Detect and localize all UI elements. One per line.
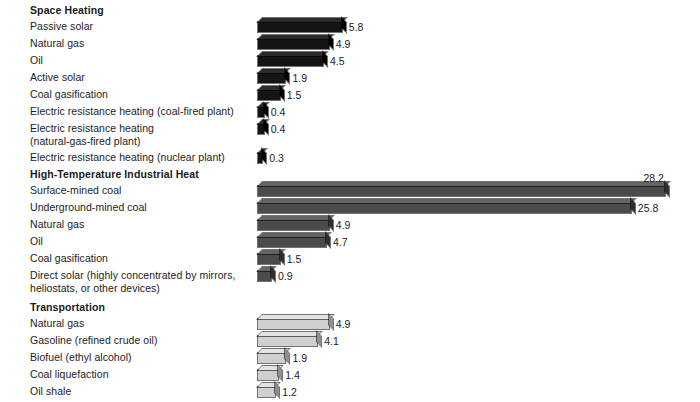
bar-front-face xyxy=(258,387,275,397)
bar-value-label: 1.9 xyxy=(292,72,307,84)
bar-front-face xyxy=(258,107,264,117)
bar-front-face xyxy=(258,370,278,380)
category-label: Natural gas xyxy=(30,218,84,231)
category-label: Surface-mined coal xyxy=(30,184,121,197)
bar-side-face xyxy=(275,383,279,397)
chart-row: Natural gas4.9 xyxy=(0,218,700,235)
chart-row: Natural gas4.9 xyxy=(0,317,700,334)
bar-value-label: 0.4 xyxy=(271,123,286,135)
bar xyxy=(258,203,631,217)
bar-front-face xyxy=(258,353,285,363)
chart-row: Coal liquefaction1.4 xyxy=(0,368,700,385)
bar xyxy=(258,271,271,285)
category-label: Electric resistance heating (nuclear pla… xyxy=(30,151,225,164)
bar xyxy=(258,124,264,138)
bar-front-face xyxy=(258,56,323,66)
bar-top-face xyxy=(258,199,635,203)
bar-top-face xyxy=(258,35,333,39)
bar xyxy=(258,237,326,251)
category-label: Coal gasification xyxy=(30,252,108,265)
bar-value-label: 1.9 xyxy=(292,352,307,364)
chart-row: Electric resistance heating (natural-gas… xyxy=(0,122,700,139)
bar xyxy=(258,319,329,333)
bar xyxy=(258,56,323,70)
group-title: Space Heating xyxy=(30,4,104,16)
bar-value-label: 4.5 xyxy=(330,55,345,67)
bar xyxy=(258,370,278,384)
bar-top-face xyxy=(258,315,333,319)
bar-side-face xyxy=(285,349,289,363)
category-label: Oil xyxy=(30,54,43,67)
chart-row: Gasoline (refined crude oil)4.1 xyxy=(0,334,700,351)
bar-side-face xyxy=(329,315,333,329)
category-label: Gasoline (refined crude oil) xyxy=(30,334,158,347)
bar xyxy=(258,107,264,121)
bar-value-label: 25.8 xyxy=(638,202,658,214)
bar-side-face xyxy=(326,233,330,247)
bar-top-face xyxy=(258,216,333,220)
bar-front-face xyxy=(258,319,329,329)
bar-value-label: 1.5 xyxy=(287,253,302,265)
bar xyxy=(258,153,262,167)
category-label: Natural gas xyxy=(30,317,84,330)
category-label: Underground-mined coal xyxy=(30,201,147,214)
bar xyxy=(258,22,342,36)
bar-side-face xyxy=(278,366,282,380)
chart-row: Biofuel (ethyl alcohol)1.9 xyxy=(0,351,700,368)
bar xyxy=(258,387,275,401)
category-label: Biofuel (ethyl alcohol) xyxy=(30,351,132,364)
chart-row: Electric resistance heating (nuclear pla… xyxy=(0,151,700,168)
bar-front-face xyxy=(258,203,631,213)
bar-side-face xyxy=(280,250,284,264)
bar-front-face xyxy=(258,186,665,196)
bar-front-face xyxy=(258,220,329,230)
bar-value-label: 4.1 xyxy=(324,335,339,347)
group-title: Transportation xyxy=(30,301,105,313)
chart-row: Oil shale1.2 xyxy=(0,385,700,402)
chart-row: Underground-mined coal25.8 xyxy=(0,201,700,218)
chart-row: Natural gas4.9 xyxy=(0,37,700,54)
bar-top-face xyxy=(258,233,330,237)
category-label: Electric resistance heating (natural-gas… xyxy=(30,122,154,147)
bar-value-label: 4.9 xyxy=(336,38,351,50)
chart-row: Passive solar5.8 xyxy=(0,20,700,37)
bar xyxy=(258,336,317,350)
bar-value-label: 5.8 xyxy=(349,21,364,33)
bar-top-face xyxy=(258,18,346,22)
bar-side-face xyxy=(264,120,268,134)
bar-side-face xyxy=(271,267,275,281)
bar-value-label: 28.2 xyxy=(643,172,663,184)
bar-side-face xyxy=(285,69,289,83)
bar-value-label: 0.9 xyxy=(278,270,293,282)
bar xyxy=(258,73,285,87)
bar xyxy=(258,220,329,234)
chart-row: Direct solar (highly concentrated by mir… xyxy=(0,269,700,286)
category-label: Oil shale xyxy=(30,385,71,398)
bar-value-label: 4.9 xyxy=(336,318,351,330)
chart-row: Electric resistance heating (coal-fired … xyxy=(0,105,700,122)
bar xyxy=(258,90,280,104)
bar-front-face xyxy=(258,22,342,32)
chart-row: Oil4.7 xyxy=(0,235,700,252)
chart-row: Coal gasification1.5 xyxy=(0,252,700,269)
bar-side-face xyxy=(329,216,333,230)
bar-front-face xyxy=(258,39,329,49)
bar-value-label: 1.4 xyxy=(285,369,300,381)
bar-front-face xyxy=(258,90,280,100)
bar xyxy=(258,39,329,53)
bar-front-face xyxy=(258,254,280,264)
bar-side-face xyxy=(329,35,333,49)
chart-row: Coal gasification1.5 xyxy=(0,88,700,105)
bar-front-face xyxy=(258,73,285,83)
bar-side-face xyxy=(280,86,284,100)
category-label: Active solar xyxy=(30,71,85,84)
bar-value-label: 4.9 xyxy=(336,219,351,231)
category-label: Passive solar xyxy=(30,20,93,33)
bar-value-label: 1.5 xyxy=(287,89,302,101)
bar-side-face xyxy=(317,332,321,346)
bar xyxy=(258,186,665,200)
bar-front-face xyxy=(258,124,264,134)
category-label: Natural gas xyxy=(30,37,84,50)
bar-front-face xyxy=(258,271,271,281)
category-label: Coal liquefaction xyxy=(30,368,109,381)
